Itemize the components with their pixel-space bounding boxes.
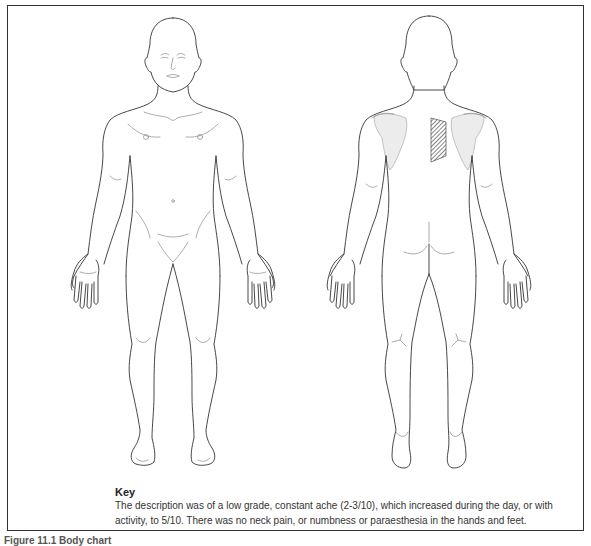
pain-area-hatched xyxy=(431,118,446,162)
key-title: Key xyxy=(115,486,555,499)
key-description: The description was of a low grade, cons… xyxy=(115,499,555,528)
key-section: Key The description was of a low grade, … xyxy=(115,486,555,528)
body-chart-frame: Key The description was of a low grade, … xyxy=(7,5,584,531)
body-chart-back-view xyxy=(304,6,554,481)
front-body-outline-icon xyxy=(48,6,298,481)
body-chart-front-view xyxy=(48,6,298,481)
figure-caption: Figure 11.1 Body chart xyxy=(4,535,111,546)
back-body-outline-icon xyxy=(304,6,554,481)
